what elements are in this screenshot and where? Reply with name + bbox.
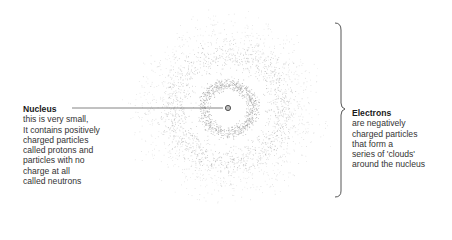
electrons-desc-line: are negatively [352,118,425,128]
nucleus-desc-line: particles with no [23,155,100,165]
nucleus-dot [225,105,230,110]
nucleus-desc-line: charge at all [23,166,100,176]
nucleus-desc-line: called protons and [23,145,100,155]
nucleus-desc-line: charged particles [23,135,100,145]
nucleus-desc-line: It contains positively [23,125,100,135]
nucleus-desc-line: this is very small, [23,114,100,124]
electrons-desc-line: around the nucleus [352,159,425,169]
electrons-brace [335,23,345,197]
nucleus-title: Nucleus [23,104,100,114]
nucleus-label: Nucleus this is very small, It contains … [23,104,100,186]
electrons-title: Electrons [352,108,425,118]
electrons-desc-line: charged particles [352,129,425,139]
electrons-desc-line: that form a [352,139,425,149]
electrons-label: Electrons are negatively charged particl… [352,108,425,170]
nucleus-desc-line: called neutrons [23,176,100,186]
electrons-desc-line: series of 'clouds' [352,149,425,159]
